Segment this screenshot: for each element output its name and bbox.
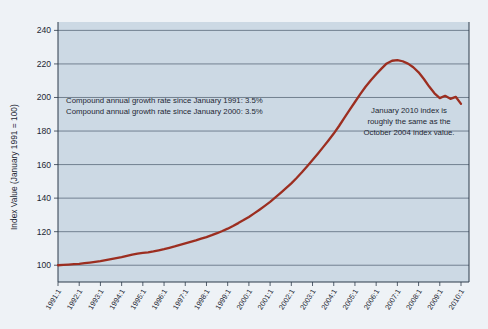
jan-2010-line-2: roughly the same as the <box>367 117 450 126</box>
line-chart: 100120140160180200220240 1991:11992:1199… <box>0 0 488 329</box>
chart-container: 100120140160180200220240 1991:11992:1199… <box>0 0 488 329</box>
y-tick-label: 140 <box>37 193 52 203</box>
y-tick-label: 200 <box>37 92 52 102</box>
jan-2010-line-1: January 2010 index is <box>371 106 447 115</box>
y-tick-label: 240 <box>37 25 52 35</box>
plot-area-background <box>58 22 469 282</box>
y-tick-label: 120 <box>37 227 52 237</box>
y-axis-title: Index Value (January 1991 = 100) <box>9 104 19 230</box>
jan-2010-line-3: October 2004 index value. <box>363 128 454 137</box>
growth-rate-line-1: Compound annual growth rate since Januar… <box>66 96 263 105</box>
y-tick-label: 160 <box>37 160 52 170</box>
y-tick-label: 180 <box>37 126 52 136</box>
growth-rate-line-2: Compound annual growth rate since Januar… <box>66 107 263 116</box>
y-tick-label: 100 <box>37 260 52 270</box>
jan-2010-annotation: January 2010 index is roughly the same a… <box>363 106 454 137</box>
y-tick-label: 220 <box>37 59 52 69</box>
